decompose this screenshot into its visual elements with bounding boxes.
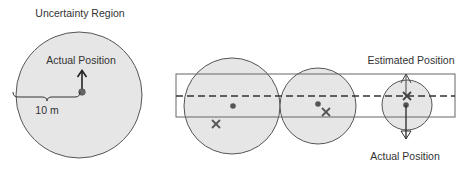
path-estimation-panel: Estimated Position Actual Position (176, 54, 455, 162)
estimated-position-label: Estimated Position (368, 54, 455, 66)
localization-uncertainty-diagram: Uncertainty Region Actual Position 10 m (0, 0, 469, 172)
actual-position-label-right: Actual Position (370, 150, 440, 162)
uncertainty-region-title: Uncertainty Region (35, 7, 124, 19)
actual-position-label: Actual Position (46, 54, 116, 66)
uncertainty-region-panel: Uncertainty Region Actual Position 10 m (13, 7, 142, 158)
actual-position-dot-2 (315, 101, 321, 107)
radius-label: 10 m (35, 104, 59, 116)
actual-position-dot-1 (230, 103, 236, 109)
